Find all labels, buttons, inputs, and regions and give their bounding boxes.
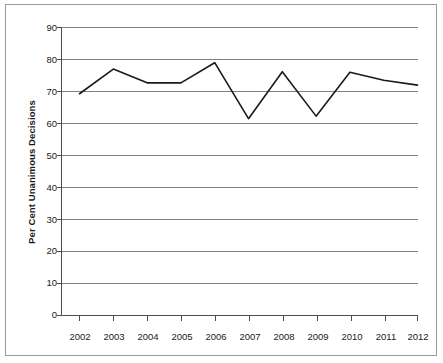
chart-screenshot: Per Cent Unanimous Decisions 90 80 70 60… [0, 0, 443, 363]
gridlines-horizontal [62, 28, 418, 284]
data-series-line [80, 63, 418, 119]
x-axis-ticks [80, 316, 418, 322]
line-chart: Per Cent Unanimous Decisions 90 80 70 60… [0, 0, 443, 363]
plot-canvas [0, 0, 443, 363]
